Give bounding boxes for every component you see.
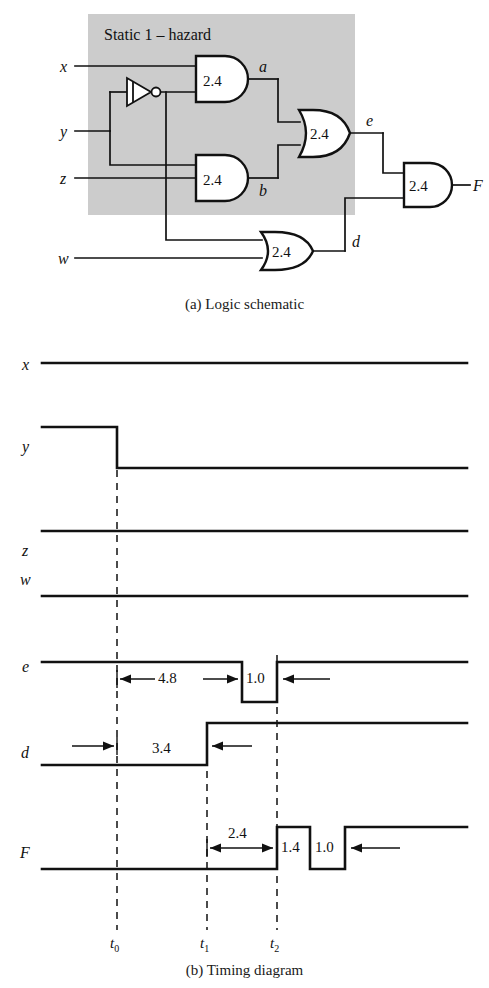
time-marker-label-t0: t0 [110,935,119,954]
annotation-F-2p4: 2.4 [207,825,273,857]
gate-and-b[interactable]: 2.4 [196,155,248,201]
annotation-e-1p0: 1.0 [246,670,330,686]
gate-e-delay: 2.4 [310,126,329,142]
gate-and-a[interactable]: 2.4 [196,56,248,102]
annotation-value-F-1p0: 1.0 [315,839,334,855]
annotation-value-e-4p8: 4.8 [158,670,177,686]
caption-logic-schematic: (a) Logic schematic [0,296,489,313]
time-marker-label-t1: t1 [200,935,209,954]
logic-schematic: Static 1 – hazard x y z w [58,14,483,270]
t1-sub: 1 [204,943,209,954]
t0-sub: 0 [114,943,119,954]
svg-text:t1: t1 [200,935,209,954]
annotation-value-F-2p4: 2.4 [228,825,247,841]
time-marker-label-t2: t2 [270,935,279,954]
arrow-head-e-1p0 [283,675,294,684]
caption-timing-diagram: (b) Timing diagram [0,962,489,979]
waveform-label-F: F [19,844,30,861]
waveform-label-d: d [21,744,30,761]
waveform-y [42,427,467,468]
arrow-head-F-left [210,844,221,853]
input-label-z: z [59,170,67,187]
input-label-w: w [58,250,69,267]
net-label-F: F [472,177,483,194]
gate-F-delay: 2.4 [409,178,428,194]
annotation-F-1p4: 1.4 [281,839,300,855]
arrow-head-F-right [262,844,273,853]
input-label-x: x [59,58,67,75]
waveform-label-y: y [20,438,30,456]
arrow-head-d-right [212,742,223,751]
static-hazard-label: Static 1 – hazard [104,26,211,43]
arrow-head-left-e [120,675,131,684]
waveform-label-z: z [21,542,29,559]
arrow-head-d-left [103,742,114,751]
inverter-bubble-icon [152,88,161,97]
t2-sub: 2 [274,943,279,954]
gate-a-delay: 2.4 [203,73,222,89]
gate-and-F[interactable]: 2.4 [404,163,452,207]
timing-diagram: x y z w e d F [19,356,467,954]
input-label-y: y [58,123,68,141]
waveform-label-w: w [20,571,31,588]
annotation-value-F-1p4: 1.4 [281,839,300,855]
annotation-value-d-3p4: 3.4 [152,740,171,756]
wire-e-to-and-F [383,133,404,173]
net-label-e: e [366,112,373,129]
annotation-value-e-1p0: 1.0 [246,670,265,686]
figure-svg: Static 1 – hazard x y z w [0,0,489,988]
net-label-a: a [259,58,267,75]
figure-container: Static 1 – hazard x y z w [0,0,489,988]
annotation-F-1p0: 1.0 [315,839,400,855]
net-label-b: b [259,182,267,199]
gate-b-delay: 2.4 [203,172,222,188]
annotation-e-4p8: 4.8 [117,664,238,688]
net-label-d: d [352,233,361,250]
arrow-head-F-1p0 [351,844,362,853]
arrow-head-right-e [227,675,238,684]
annotation-d-3p4: 3.4 [72,737,252,756]
svg-text:t2: t2 [270,935,279,954]
gate-or-d[interactable]: 2.4 [261,232,313,270]
gate-d-delay: 2.4 [272,244,291,260]
svg-text:t0: t0 [110,935,119,954]
waveform-label-e: e [22,658,29,675]
waveform-label-x: x [21,356,29,373]
